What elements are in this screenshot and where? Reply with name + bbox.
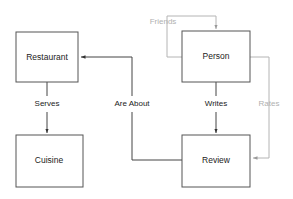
node-review-label: Review: [202, 155, 231, 165]
diagram-svg: Friends Rates Serves Are About Writes: [0, 0, 293, 199]
node-person[interactable]: Person: [182, 31, 250, 82]
diagram-canvas: Friends Rates Serves Are About Writes: [0, 0, 293, 199]
edge-are-about: Are About: [81, 57, 182, 160]
node-cuisine[interactable]: Cuisine: [16, 135, 83, 187]
edge-label-writes: Writes: [205, 99, 228, 108]
node-cuisine-label: Cuisine: [35, 155, 64, 165]
edge-are-about-path-lower: [132, 112, 182, 160]
node-review[interactable]: Review: [182, 135, 250, 187]
edge-label-friends: Friends: [150, 17, 177, 26]
edge-rates: Rates: [250, 57, 279, 158]
edge-label-rates: Rates: [259, 99, 280, 108]
edge-serves: Serves: [35, 82, 60, 133]
edge-label-serves: Serves: [35, 99, 60, 108]
node-person-label: Person: [203, 51, 230, 61]
edge-writes: Writes: [205, 82, 228, 133]
node-restaurant[interactable]: Restaurant: [16, 32, 78, 82]
node-restaurant-label: Restaurant: [26, 52, 68, 62]
edge-are-about-path-upper: [81, 57, 132, 96]
edge-label-are-about: Are About: [114, 99, 150, 108]
